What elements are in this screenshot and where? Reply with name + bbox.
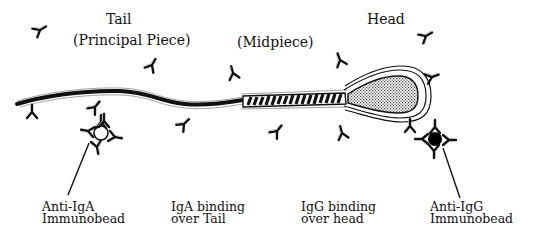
callout-iga-binding-2: over Tail	[171, 211, 226, 226]
callout-igg-binding-2: over head	[301, 211, 364, 226]
antibody-icon	[26, 105, 37, 118]
sperm-midpiece	[241, 90, 347, 109]
antibody-icon	[86, 98, 103, 115]
anti-igg-immunobead	[415, 120, 460, 198]
callout-anti-iga-2: Immunobead	[42, 211, 125, 226]
antibody-icon	[424, 69, 440, 84]
sperm-head	[344, 66, 431, 122]
sperm-tail	[17, 88, 243, 109]
callout-anti-igg-2: Immunobead	[430, 211, 513, 226]
label-tail: Tail	[106, 11, 132, 27]
antibody-icon	[418, 27, 435, 43]
antibody-icon	[334, 125, 348, 140]
antibody-icon	[268, 122, 285, 139]
label-midpiece: (Midpiece)	[237, 34, 314, 50]
antibody-icon	[144, 56, 160, 73]
antibody-icon	[225, 65, 239, 80]
label-head: Head	[367, 11, 405, 27]
anti-iga-immunobead	[68, 115, 123, 195]
label-principal-piece: (Principal Piece)	[73, 32, 190, 48]
antibody-icon	[175, 115, 192, 132]
diagram-canvas: Tail (Principal Piece) (Midpiece) Head	[0, 0, 534, 234]
antibody-icon	[332, 52, 347, 68]
sperm-immunobead-diagram: Tail (Principal Piece) (Midpiece) Head	[0, 0, 534, 234]
antibody-icon	[32, 21, 49, 37]
